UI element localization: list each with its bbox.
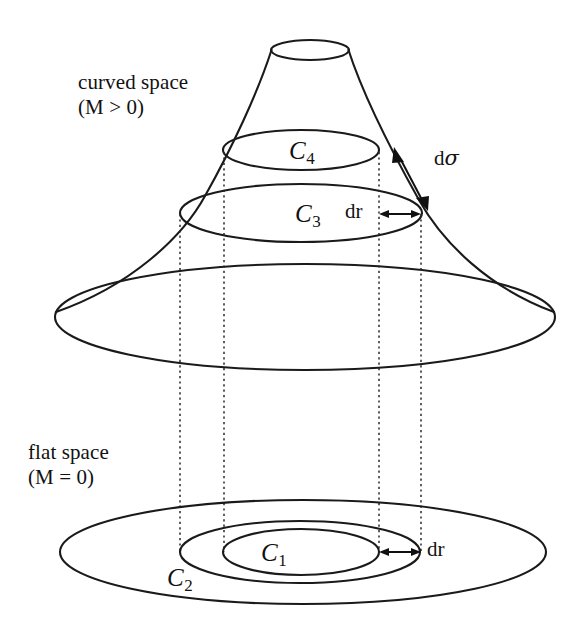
curved-space-label-line1: curved space xyxy=(78,70,188,94)
dsigma-label-prefix: d xyxy=(434,146,445,170)
curved-space-label-line2: (M > 0) xyxy=(78,95,188,120)
c1-label-base: C xyxy=(261,539,278,566)
c1-label-subscript: 1 xyxy=(278,551,287,570)
flat-space-group xyxy=(60,500,546,604)
dr-curved-arrow-head-right xyxy=(411,210,421,218)
c3-label-base: C xyxy=(295,200,312,227)
c1-label: C1 xyxy=(261,538,287,571)
flat-space-label-line2: (M = 0) xyxy=(28,465,109,490)
figure-canvas: curved space (M > 0) flat space (M = 0) … xyxy=(0,0,571,631)
c2-label: C2 xyxy=(167,563,193,596)
c3-label: C3 xyxy=(295,199,321,232)
dr-curved-arrow xyxy=(379,210,421,218)
c2-label-subscript: 2 xyxy=(184,576,193,595)
throat-ellipse xyxy=(271,40,349,60)
dr-curved-label: dr xyxy=(345,199,363,224)
dr-curved-arrow-head-left xyxy=(379,210,389,218)
flat-space-label: flat space (M = 0) xyxy=(28,440,109,490)
dr-flat-label: dr xyxy=(427,537,445,562)
flat-outer-ellipse xyxy=(60,500,546,604)
dsigma-arrow-head-upper xyxy=(392,147,404,163)
dsigma-label-symbol: σ xyxy=(445,146,459,170)
curved-space-label: curved space (M > 0) xyxy=(78,70,188,120)
c1-ellipse xyxy=(223,529,379,575)
c3-label-subscript: 3 xyxy=(312,212,321,231)
dr-flat-label-text: dr xyxy=(427,537,445,561)
c4-label-base: C xyxy=(289,137,306,164)
dr-flat-arrow-head-left xyxy=(379,548,389,556)
flat-space-label-line1: flat space xyxy=(28,440,109,464)
dsigma-label: dσ xyxy=(434,146,459,171)
c4-label: C4 xyxy=(289,136,315,169)
funnel-base-ellipse xyxy=(55,264,555,370)
dr-flat-arrow xyxy=(379,548,421,556)
dsigma-arrow-head-lower xyxy=(416,196,429,211)
c2-label-base: C xyxy=(167,564,184,591)
dr-curved-label-text: dr xyxy=(345,199,363,223)
c4-label-subscript: 4 xyxy=(306,149,315,168)
